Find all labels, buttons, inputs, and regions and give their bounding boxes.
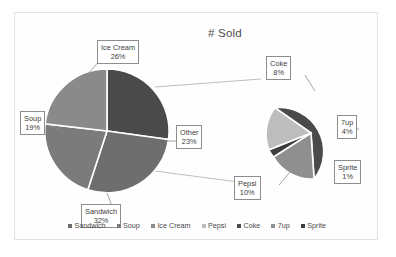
label-sprite: Sprite 1% — [334, 160, 361, 184]
connector-lines — [155, 79, 261, 185]
label-other-name: Other — [180, 128, 198, 137]
label-pepsi-name: Pepsi — [238, 179, 257, 188]
legend-item-sprite[interactable]: Sprite — [301, 221, 326, 230]
label-ice-cream: Ice Cream 26% — [97, 40, 139, 64]
label-sandwich-name: Sandwich — [85, 207, 117, 216]
legend-item-7up[interactable]: 7up — [271, 221, 290, 230]
legend-label: 7up — [278, 221, 290, 230]
label-coke-pct: 8% — [270, 68, 287, 77]
legend-swatch-icon — [117, 224, 121, 228]
leader-coke — [305, 75, 315, 91]
label-sprite-name: Sprite — [338, 163, 357, 172]
legend-item-sandwich[interactable]: Sandwich — [68, 221, 106, 230]
slice-other — [107, 69, 169, 140]
legend-label: Pepsi — [208, 221, 226, 230]
label-other: Other 23% — [176, 125, 202, 149]
label-7up: 7up 4% — [337, 115, 357, 139]
label-other-pct: 23% — [180, 137, 198, 146]
label-ice-cream-name: Ice Cream — [101, 43, 135, 52]
legend-swatch-icon — [202, 224, 206, 228]
chart-legend: Sandwich Soup Ice Cream Pepsi Coke 7up S… — [15, 221, 379, 230]
label-coke: Coke 8% — [266, 56, 291, 80]
legend-label: Soup — [123, 221, 140, 230]
primary-pie — [45, 69, 169, 193]
legend-item-soup[interactable]: Soup — [117, 221, 140, 230]
slice-ice-cream — [45, 69, 107, 131]
label-7up-pct: 4% — [341, 127, 353, 136]
label-soup-name: Soup — [24, 114, 41, 123]
label-soup-pct: 19% — [24, 123, 41, 132]
label-soup: Soup 19% — [20, 111, 45, 135]
legend-swatch-icon — [68, 224, 72, 228]
legend-label: Sandwich — [74, 221, 105, 230]
label-sprite-pct: 1% — [338, 172, 357, 181]
legend-label: Sprite — [307, 221, 326, 230]
legend-label: Coke — [244, 221, 261, 230]
legend-item-pepsi[interactable]: Pepsi — [202, 221, 226, 230]
legend-swatch-icon — [237, 224, 241, 228]
leader-pepsi — [279, 171, 291, 185]
label-pepsi: Pepsi 10% — [234, 176, 261, 200]
legend-item-ice-cream[interactable]: Ice Cream — [151, 221, 191, 230]
label-coke-name: Coke — [270, 59, 287, 68]
legend-swatch-icon — [301, 224, 305, 228]
secondary-pie — [253, 99, 341, 187]
legend-swatch-icon — [271, 224, 275, 228]
legend-label: Ice Cream — [157, 221, 190, 230]
legend-item-coke[interactable]: Coke — [237, 221, 260, 230]
legend-swatch-icon — [151, 224, 155, 228]
label-ice-cream-pct: 26% — [101, 52, 135, 61]
connector-top — [155, 79, 261, 87]
label-pepsi-pct: 10% — [238, 188, 257, 197]
chart-frame: # Sold — [14, 12, 378, 240]
label-7up-name: 7up — [341, 118, 353, 127]
